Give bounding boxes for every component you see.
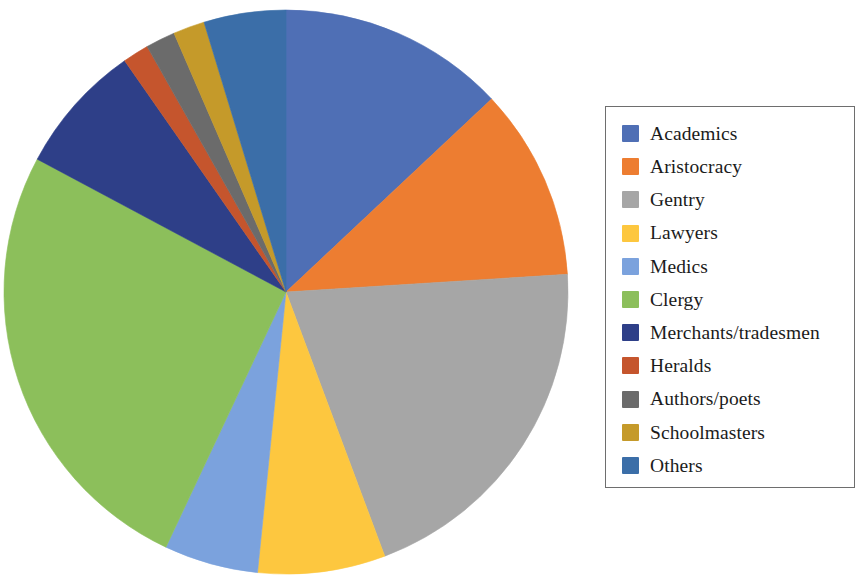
legend-item-label: Merchants/tradesmen bbox=[650, 323, 820, 343]
legend-item[interactable]: Heralds bbox=[622, 349, 854, 382]
legend-swatch-icon bbox=[622, 225, 639, 242]
legend-item[interactable]: Merchants/tradesmen bbox=[622, 316, 854, 349]
legend-item[interactable]: Academics bbox=[622, 117, 854, 150]
legend-swatch-icon bbox=[622, 191, 639, 208]
pie-slice-group bbox=[4, 10, 568, 574]
legend-item-label: Clergy bbox=[650, 290, 703, 310]
pie-chart-plot-area bbox=[0, 0, 580, 579]
legend-item-label: Academics bbox=[650, 124, 738, 144]
legend-item[interactable]: Gentry bbox=[622, 183, 854, 216]
legend-item-list: AcademicsAristocracyGentryLawyersMedicsC… bbox=[622, 117, 854, 482]
legend-item[interactable]: Others bbox=[622, 449, 854, 482]
legend-item[interactable]: Clergy bbox=[622, 283, 854, 316]
legend-item-label: Aristocracy bbox=[650, 157, 742, 177]
legend-swatch-icon bbox=[622, 158, 639, 175]
legend-swatch-icon bbox=[622, 324, 639, 341]
legend-item-label: Lawyers bbox=[650, 223, 718, 243]
legend-swatch-icon bbox=[622, 125, 639, 142]
legend-swatch-icon bbox=[622, 424, 639, 441]
legend-item-label: Medics bbox=[650, 257, 708, 277]
legend-swatch-icon bbox=[622, 291, 639, 308]
legend-item[interactable]: Medics bbox=[622, 250, 854, 283]
legend-swatch-icon bbox=[622, 391, 639, 408]
chart-legend: AcademicsAristocracyGentryLawyersMedicsC… bbox=[605, 106, 855, 488]
legend-swatch-icon bbox=[622, 258, 639, 275]
legend-item-label: Gentry bbox=[650, 190, 705, 210]
legend-item[interactable]: Lawyers bbox=[622, 217, 854, 250]
legend-item-label: Others bbox=[650, 456, 703, 476]
legend-item-label: Schoolmasters bbox=[650, 423, 765, 443]
legend-swatch-icon bbox=[622, 357, 639, 374]
pie-chart-svg bbox=[0, 0, 580, 579]
legend-swatch-icon bbox=[622, 457, 639, 474]
legend-item-label: Authors/poets bbox=[650, 389, 761, 409]
legend-item[interactable]: Aristocracy bbox=[622, 150, 854, 183]
legend-item-label: Heralds bbox=[650, 356, 711, 376]
legend-item[interactable]: Authors/poets bbox=[622, 383, 854, 416]
legend-item[interactable]: Schoolmasters bbox=[622, 416, 854, 449]
